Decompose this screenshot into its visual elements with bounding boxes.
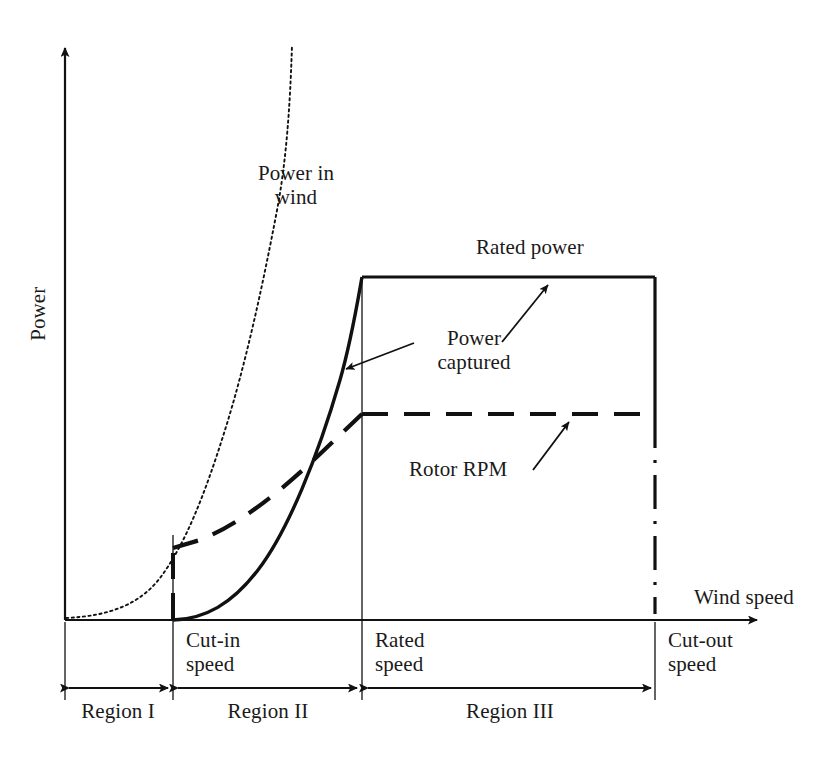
y-axis-label: Power bbox=[27, 278, 51, 350]
figure-canvas: Power Wind speed Power in wind Power cap… bbox=[0, 0, 835, 758]
region-1-label: Region I bbox=[62, 700, 174, 724]
rotor-rpm-label: Rotor RPM bbox=[409, 458, 507, 482]
rated-power-label: Rated power bbox=[476, 236, 584, 260]
power-captured-label: Power captured bbox=[419, 327, 529, 374]
power-captured-leader-arrow bbox=[346, 343, 414, 369]
power-captured-curve bbox=[173, 277, 655, 620]
rotor-rpm-leader-arrow bbox=[533, 422, 569, 470]
rotor-rpm-curve bbox=[173, 414, 655, 619]
region-3-label: Region III bbox=[370, 700, 650, 724]
cut-out-speed-label: Cut-out speed bbox=[668, 629, 733, 676]
region-2-label: Region II bbox=[180, 700, 356, 724]
power-in-wind-label: Power in wind bbox=[236, 162, 356, 209]
cut-in-speed-label: Cut-in speed bbox=[186, 629, 240, 676]
rated-speed-label: Rated speed bbox=[375, 629, 424, 676]
power-in-wind-curve bbox=[66, 45, 292, 618]
x-axis-label: Wind speed bbox=[694, 586, 794, 610]
marker-guide-lines bbox=[65, 280, 655, 700]
